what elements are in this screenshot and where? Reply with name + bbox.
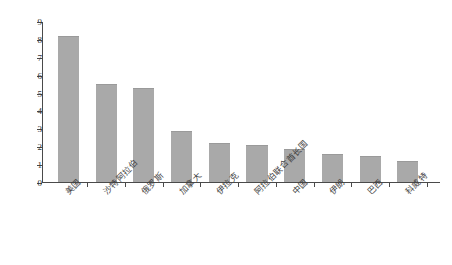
x-tick-mark (200, 183, 201, 187)
bar-chart: 产量（亿吨） 0123456789 美国沙特阿拉伯俄罗斯加拿大伊拉克阿拉伯联合酋… (0, 0, 452, 265)
y-tick-label: 0 (38, 179, 43, 188)
y-tick-label: 7 (38, 53, 43, 62)
y-tick-label: 8 (38, 35, 43, 44)
bar (171, 131, 192, 182)
x-tick-mark (125, 183, 126, 187)
bar (96, 84, 117, 182)
y-tick-label: 3 (38, 125, 43, 134)
y-axis-line (42, 22, 43, 183)
y-tick-label: 4 (38, 107, 43, 116)
x-tick-mark (389, 183, 390, 187)
y-tick-label: 1 (38, 161, 43, 170)
y-tick-label: 6 (38, 71, 43, 80)
x-tick-mark (427, 183, 428, 187)
x-tick-mark (351, 183, 352, 187)
bar (58, 36, 79, 182)
x-tick-mark (163, 183, 164, 187)
x-tick-mark (87, 183, 88, 187)
y-tick-label: 9 (38, 18, 43, 27)
y-tick-label: 2 (38, 143, 43, 152)
x-tick-mark (314, 183, 315, 187)
x-tick-mark (276, 183, 277, 187)
x-tick-mark (238, 183, 239, 187)
plot-area: 0123456789 (42, 22, 440, 183)
y-tick-label: 5 (38, 89, 43, 98)
